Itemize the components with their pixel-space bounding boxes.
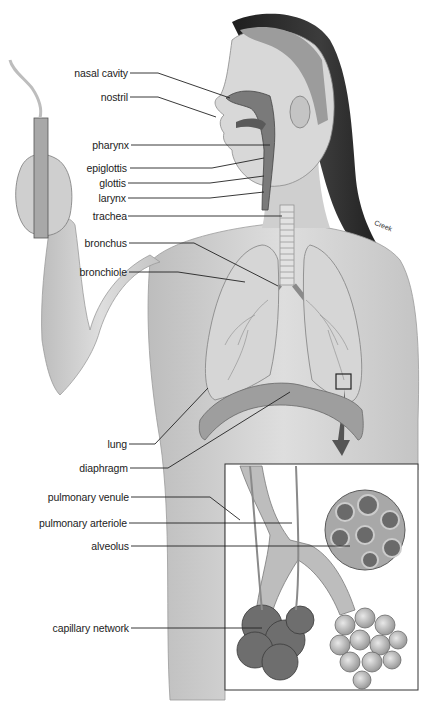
label-larynx: larynx (99, 192, 126, 204)
label-alveolus: alveolus (91, 540, 129, 552)
label-pulmonary-venule: pulmonary venule (48, 491, 129, 503)
label-bronchiole: bronchiole (80, 266, 127, 278)
respiratory-diagram: nasal cavity nostril pharynx epiglottis … (0, 0, 428, 703)
label-lung: lung (108, 438, 127, 450)
label-trachea: trachea (93, 210, 127, 222)
label-bronchus: bronchus (85, 237, 127, 249)
alveoli-inset (225, 464, 418, 690)
label-epiglottis: epiglottis (87, 162, 127, 174)
anatomy-illustration (0, 0, 428, 703)
label-capillary-network: capillary network (53, 622, 130, 634)
label-nasal-cavity: nasal cavity (74, 67, 128, 79)
smoke (10, 60, 41, 118)
candle (34, 118, 48, 238)
arm-hand-candle (10, 60, 160, 395)
label-glottis: glottis (99, 177, 126, 189)
label-diaphragm: diaphragm (79, 462, 128, 474)
label-nostril: nostril (101, 91, 128, 103)
label-pharynx: pharynx (92, 139, 129, 151)
label-pulmonary-arteriole: pulmonary arteriole (39, 517, 127, 529)
